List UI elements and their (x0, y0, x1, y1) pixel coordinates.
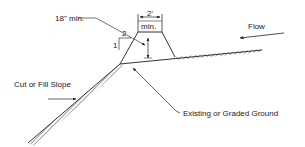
cut-fill-slope (28, 64, 124, 146)
cut-fill-slope-label: Cut or Fill Slope (14, 80, 71, 89)
cut-fill-slope-callout: Cut or Fill Slope (14, 80, 76, 99)
berm-cross-section-diagram: 2' min. 18" min. 2 1 Flow Cut or Fill Sl… (0, 0, 305, 147)
flow-indicator: Flow (240, 22, 284, 38)
existing-ground-label: Existing or Graded Ground (183, 109, 278, 118)
flow-label: Flow (248, 22, 265, 31)
existing-ground-callout: Existing or Graded Ground (133, 68, 278, 118)
top-width-dimension: 2' min. (138, 9, 162, 32)
slope-ratio-indicator: 2 1 (113, 29, 131, 50)
height-dimension: 18" min. (55, 14, 152, 58)
height-min-label: 18" min. (55, 14, 84, 23)
top-width-value: 2' (147, 9, 153, 18)
slope-rise-label: 1 (113, 41, 118, 50)
top-width-min-label: min. (141, 22, 156, 31)
existing-ground (120, 49, 262, 64)
slope-run-label: 2 (122, 29, 127, 38)
